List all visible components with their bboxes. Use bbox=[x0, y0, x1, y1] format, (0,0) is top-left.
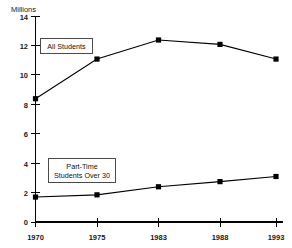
label-box-all-students: All Students bbox=[41, 39, 93, 54]
data-point-marker bbox=[156, 184, 161, 189]
label-box-part-time: Part-Time Students Over 30 bbox=[49, 159, 116, 183]
label-box-all-students-text: All Students bbox=[47, 42, 86, 51]
line-chart: Millions 14 12 10 8 6 4 2 0 bbox=[0, 0, 292, 248]
y-tick-label-10: 10 bbox=[20, 71, 28, 80]
y-tick-label-8: 8 bbox=[24, 101, 28, 110]
data-point-marker bbox=[273, 56, 278, 61]
x-tick-label-1993: 1993 bbox=[268, 233, 285, 242]
data-point-marker bbox=[94, 56, 99, 61]
y-tick-label-0: 0 bbox=[24, 218, 28, 227]
x-tick-label-1983: 1983 bbox=[150, 233, 167, 242]
y-tick-label-4: 4 bbox=[24, 160, 29, 169]
x-tick-label-1975: 1975 bbox=[89, 233, 106, 242]
y-tick-label-12: 12 bbox=[20, 42, 28, 51]
chart-page: Millions 14 12 10 8 6 4 2 0 bbox=[0, 0, 292, 248]
data-point-marker bbox=[156, 37, 161, 42]
data-point-marker bbox=[273, 174, 278, 179]
data-point-marker bbox=[33, 96, 38, 101]
data-point-marker bbox=[33, 194, 38, 199]
y-tick-label-2: 2 bbox=[24, 189, 28, 198]
data-point-marker bbox=[217, 179, 222, 184]
data-point-marker bbox=[217, 42, 222, 47]
label-box-part-time-text-line1: Part-Time bbox=[66, 162, 97, 171]
x-tick-label-1988: 1988 bbox=[212, 233, 229, 242]
y-tick-label-6: 6 bbox=[24, 130, 28, 139]
data-point-marker bbox=[94, 192, 99, 197]
y-tick-label-14: 14 bbox=[20, 13, 29, 22]
x-tick-label-1970: 1970 bbox=[27, 233, 44, 242]
label-box-part-time-text-line2: Students Over 30 bbox=[54, 171, 110, 180]
